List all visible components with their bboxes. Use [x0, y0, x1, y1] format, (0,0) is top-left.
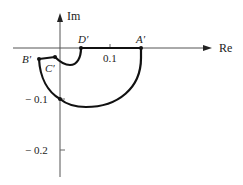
label-a-prime: A′	[135, 33, 146, 45]
point-imag-crossing	[58, 97, 62, 101]
real-axis-label: Re	[219, 41, 232, 55]
label-d-prime: D′	[77, 33, 89, 45]
label-b-prime: B′	[22, 53, 32, 65]
nyquist-diagram: Im Re 0.1 − 0.1 − 0.2 A′ D′ B′ C′	[0, 0, 243, 185]
curve-arc-c-d	[55, 48, 81, 65]
point-a	[139, 46, 143, 50]
imag-tick-label-neg0.2: − 0.2	[25, 144, 48, 156]
imag-axis-arrow-icon	[57, 13, 63, 22]
point-b	[37, 57, 41, 61]
imag-tick-label-neg0.1: − 0.1	[25, 93, 48, 105]
real-tick-label: 0.1	[103, 52, 117, 64]
curve-segment-b-c	[39, 57, 55, 59]
point-c	[53, 55, 57, 59]
real-axis-arrow-icon	[203, 45, 212, 51]
point-d	[79, 46, 83, 50]
label-c-prime: C′	[45, 62, 55, 74]
imag-axis-label: Im	[67, 9, 81, 23]
